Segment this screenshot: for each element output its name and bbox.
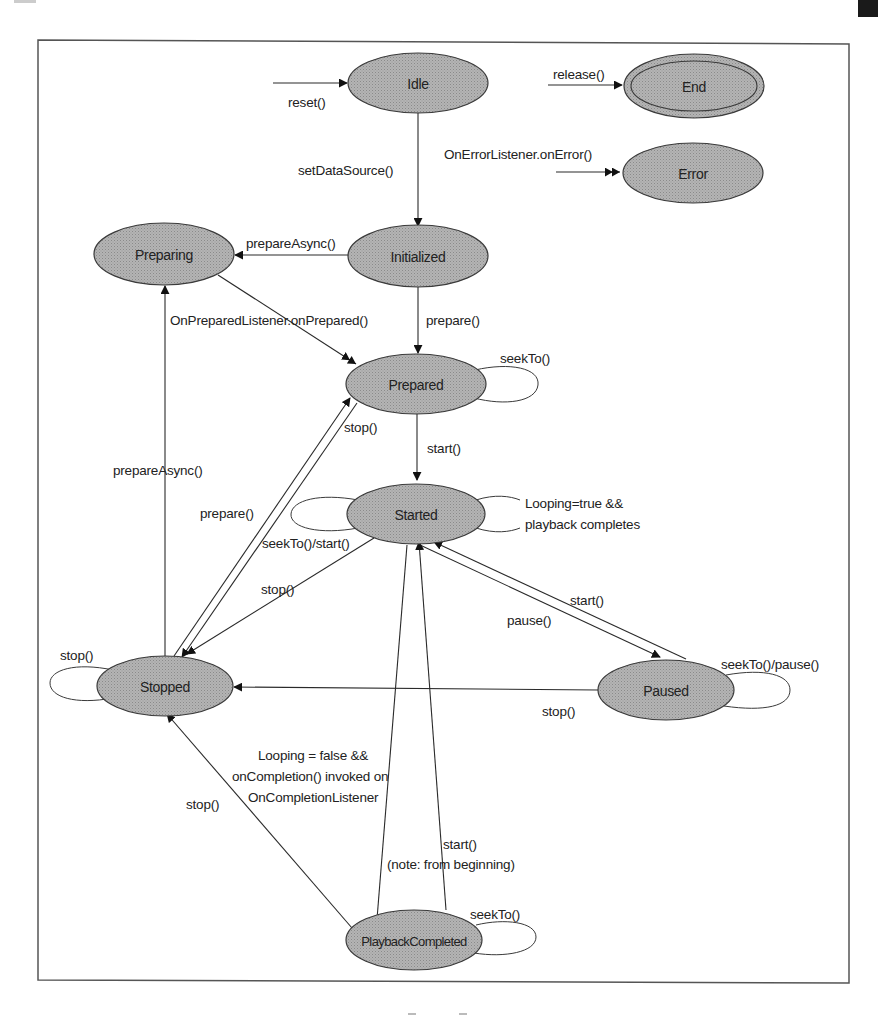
state-initialized: Initialized — [348, 225, 488, 287]
edge-stop-paused — [234, 687, 598, 690]
state-prepared: Prepared — [346, 354, 486, 414]
label-prepare-stopped: prepare() — [200, 506, 254, 521]
state-preparing: Preparing — [94, 223, 234, 285]
state-idle-label: Idle — [407, 76, 429, 92]
edge-prepare-stopped — [174, 398, 350, 656]
state-playback-completed: PlaybackCompleted — [346, 910, 482, 970]
label-start-completed-1: start() — [443, 837, 477, 852]
state-initialized-label: Initialized — [390, 249, 445, 265]
label-pause-started: pause() — [507, 613, 551, 628]
label-on-error: OnErrorListener.onError() — [444, 147, 592, 162]
label-stop-prepared: stop() — [344, 420, 377, 435]
label-stop-started: stop() — [261, 582, 294, 597]
state-preparing-label: Preparing — [135, 247, 193, 263]
label-prepare-init: prepare() — [426, 313, 480, 328]
state-end-label: End — [682, 79, 706, 95]
label-seek-start-started: seekTo()/start() — [262, 536, 350, 551]
edge-start-paused — [434, 542, 686, 659]
label-start-prepared: start() — [427, 441, 461, 456]
label-looping-false-2: onCompletion() invoked on — [232, 769, 388, 784]
state-playback-completed-label: PlaybackCompleted — [361, 934, 467, 949]
label-set-data-source: setDataSource() — [298, 163, 393, 178]
state-paused-label: Paused — [643, 683, 689, 699]
label-looping-true-1: Looping=true && — [525, 496, 623, 511]
label-stop-stopped: stop() — [60, 648, 93, 663]
label-looping-false-3: OnCompletionListener — [248, 790, 379, 805]
state-started-label: Started — [394, 507, 437, 523]
label-prepare-async-init: prepareAsync() — [246, 236, 336, 251]
label-seek-to-prepared: seekTo() — [500, 351, 550, 366]
state-stopped-label: Stopped — [140, 679, 190, 695]
state-error: Error — [623, 143, 763, 203]
state-stopped: Stopped — [97, 656, 233, 716]
label-stop-paused: stop() — [542, 704, 575, 719]
label-seek-pause-paused: seekTo()/pause() — [721, 657, 819, 672]
state-error-label: Error — [678, 166, 708, 182]
label-on-prepared: OnPreparedListener.onPrepared() — [170, 313, 368, 328]
edge-start-completed — [419, 542, 446, 910]
state-prepared-label: Prepared — [388, 377, 443, 393]
label-prepare-async-stopped: prepareAsync() — [113, 463, 203, 478]
label-stop-completed: stop() — [186, 797, 219, 812]
label-reset: reset() — [288, 95, 326, 110]
edge-stop-prepared — [182, 403, 357, 657]
edge-stop-completed — [167, 714, 352, 928]
label-looping-false-1: Looping = false && — [258, 748, 368, 763]
loop-seek-to-completed — [474, 922, 536, 955]
label-looping-true-2: playback completes — [525, 517, 640, 532]
edge-looping-false — [375, 545, 407, 944]
label-start-completed-2: (note: from beginning) — [387, 857, 515, 872]
state-idle: Idle — [348, 53, 488, 113]
label-release: release() — [553, 67, 604, 82]
state-started: Started — [347, 484, 485, 544]
state-end: End — [624, 54, 764, 118]
edge-pause-started — [420, 545, 660, 657]
state-diagram: Idle End Error Preparing Initialized Pre… — [0, 0, 880, 1016]
label-start-paused: start() — [570, 593, 604, 608]
state-paused: Paused — [598, 660, 734, 720]
label-seek-to-completed: seekTo() — [470, 907, 520, 922]
